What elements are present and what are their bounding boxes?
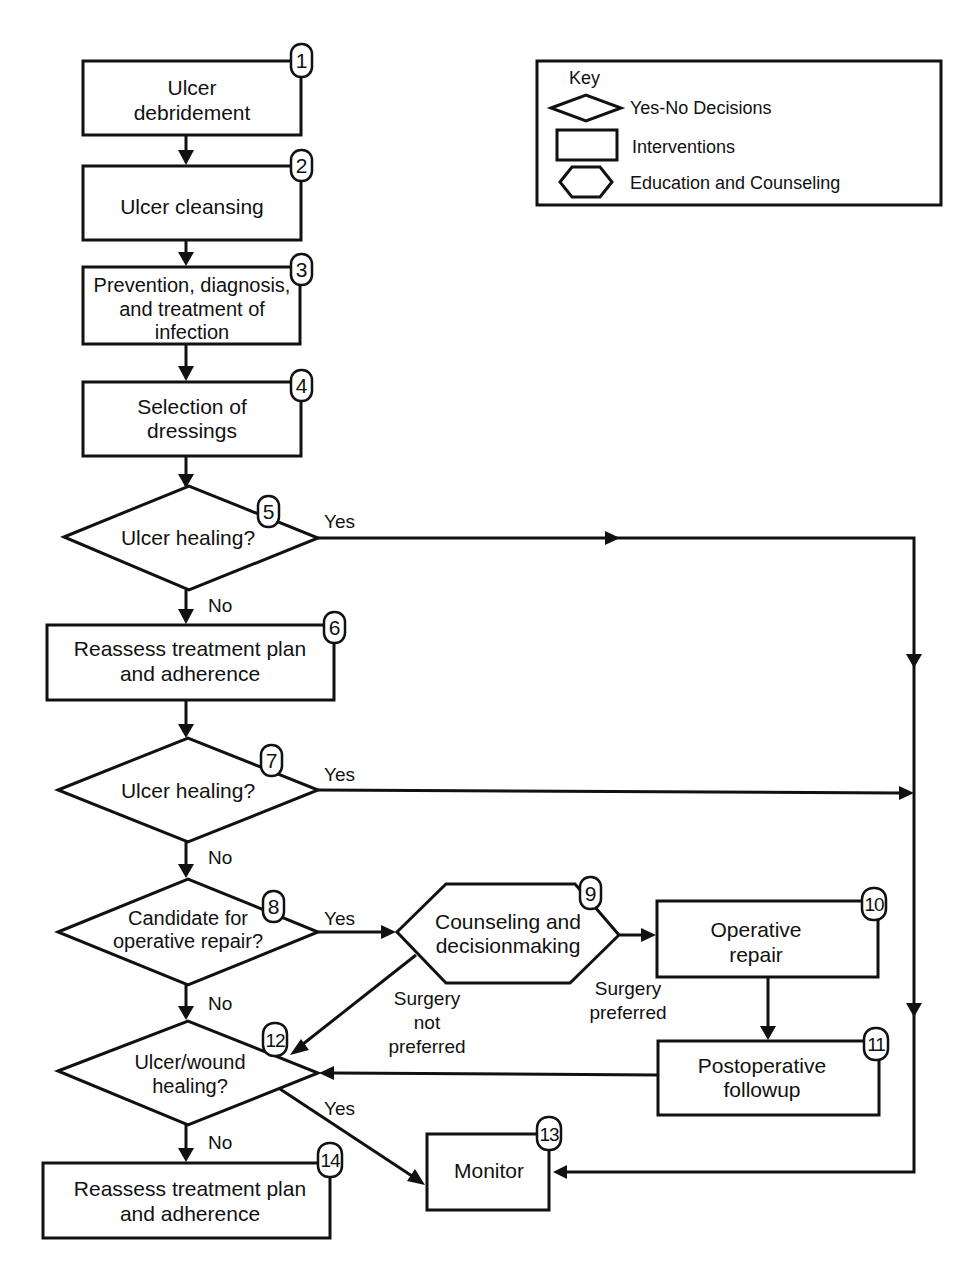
svg-text:1: 1	[296, 49, 308, 72]
decision-candidate-operative-repair: Candidate for operative repair? 8	[58, 879, 318, 985]
svg-text:Reassess treatment plan: Reassess treatment plan	[74, 1177, 306, 1200]
svg-text:Ulcer/wound: Ulcer/wound	[134, 1051, 245, 1073]
svg-text:Selection of: Selection of	[137, 395, 247, 418]
node-operative-repair: Operative repair 10	[657, 888, 886, 977]
node-ulcer-debridement: Ulcer debridement 1	[83, 44, 312, 135]
education-counseling-decisionmaking: Counseling and decisionmaking 9	[397, 877, 619, 983]
arrow-8-12-icon	[178, 1006, 194, 1020]
arrow-6-7-icon	[178, 724, 194, 738]
legend-title: Key	[569, 68, 600, 88]
node-monitor: Monitor 13	[427, 1117, 561, 1210]
svg-text:Ulcer: Ulcer	[167, 76, 216, 99]
node-reassess-6: Reassess treatment plan and adherence 6	[47, 612, 345, 700]
svg-text:9: 9	[585, 882, 597, 905]
svg-text:3: 3	[296, 258, 308, 281]
svg-text:operative repair?: operative repair?	[113, 930, 263, 952]
node-ulcer-cleansing: Ulcer cleansing 2	[83, 150, 312, 240]
svg-text:4: 4	[296, 374, 308, 397]
edge-label-8-no: No	[208, 993, 232, 1014]
svg-text:2: 2	[296, 154, 308, 177]
svg-text:debridement: debridement	[134, 101, 251, 124]
svg-text:Prevention, diagnosis,: Prevention, diagnosis,	[94, 274, 291, 296]
svg-text:6: 6	[329, 616, 341, 639]
svg-text:dressings: dressings	[147, 419, 237, 442]
legend-label-decisions: Yes-No Decisions	[630, 98, 771, 118]
edge-label-12-no: No	[208, 1132, 232, 1153]
svg-text:Candidate for: Candidate for	[128, 907, 248, 929]
arrow-8-9-icon	[381, 925, 396, 939]
edge-label-9-not-preferred-1: Surgery	[394, 988, 461, 1009]
svg-text:repair: repair	[729, 943, 783, 966]
node-selection-of-dressings: Selection of dressings 4	[83, 370, 312, 456]
node-reassess-14: Reassess treatment plan and adherence 14	[43, 1143, 342, 1238]
svg-text:and adherence: and adherence	[120, 662, 260, 685]
node-postoperative-followup: Postoperative followup 11	[658, 1028, 888, 1115]
arrow-12-13-icon	[407, 1169, 425, 1185]
legend-label-interventions: Interventions	[632, 137, 735, 157]
svg-text:14: 14	[320, 1150, 341, 1171]
decision-ulcer-wound-healing: Ulcer/wound healing? 12	[58, 1021, 318, 1125]
arrow-10-11-icon	[760, 1026, 776, 1040]
arrow-7-8-icon	[178, 864, 194, 878]
svg-text:13: 13	[539, 1124, 559, 1145]
svg-text:Postoperative: Postoperative	[698, 1054, 826, 1077]
edge-label-5-no: No	[208, 595, 232, 616]
edge-label-9-not-preferred-2: not	[414, 1012, 441, 1033]
edge-label-7-yes: Yes	[324, 764, 355, 785]
svg-text:Reassess treatment plan: Reassess treatment plan	[74, 637, 306, 660]
svg-text:8: 8	[268, 895, 280, 918]
edge-label-9-preferred-1: Surgery	[595, 978, 662, 999]
arrow-rail-down-1-icon	[906, 654, 922, 668]
edge-label-9-not-preferred-3: preferred	[388, 1036, 465, 1057]
legend-rectangle-icon	[557, 130, 617, 160]
arrow-to-monitor-icon	[553, 1165, 567, 1179]
arrow-3-4-icon	[178, 366, 194, 381]
svg-text:Ulcer healing?: Ulcer healing?	[121, 526, 255, 549]
svg-text:infection: infection	[155, 321, 230, 343]
svg-text:Counseling and: Counseling and	[435, 910, 581, 933]
svg-text:decisionmaking: decisionmaking	[436, 934, 581, 957]
arrow-5-yes-icon	[605, 531, 620, 545]
svg-text:Monitor: Monitor	[454, 1159, 524, 1182]
node-infection: Prevention, diagnosis, and treatment of …	[83, 254, 312, 344]
decision-ulcer-healing-5: Ulcer healing? 5	[64, 486, 318, 590]
svg-text:and treatment of: and treatment of	[119, 298, 265, 320]
svg-text:and adherence: and adherence	[120, 1202, 260, 1225]
svg-text:12: 12	[265, 1030, 285, 1051]
arrow-12-14-icon	[178, 1148, 194, 1162]
svg-text:Ulcer healing?: Ulcer healing?	[121, 779, 255, 802]
edge-label-9-preferred-2: preferred	[589, 1002, 666, 1023]
svg-text:healing?: healing?	[152, 1075, 228, 1097]
arrow-rail-down-2-icon	[906, 1003, 922, 1017]
svg-text:followup: followup	[723, 1078, 800, 1101]
edge-label-5-yes: Yes	[324, 511, 355, 532]
svg-text:5: 5	[263, 500, 275, 523]
svg-text:10: 10	[864, 894, 884, 915]
svg-text:Ulcer cleansing: Ulcer cleansing	[120, 195, 264, 218]
legend-label-education: Education and Counseling	[630, 173, 840, 193]
legend: Key Yes-No Decisions Interventions Educa…	[537, 61, 941, 205]
arrow-7-yes-icon	[899, 786, 914, 800]
edge-label-8-yes: Yes	[324, 908, 355, 929]
edge-label-12-yes: Yes	[324, 1098, 355, 1119]
svg-text:11: 11	[867, 1034, 885, 1055]
arrow-9-10-icon	[641, 928, 656, 942]
edge-label-7-no: No	[208, 847, 232, 868]
svg-text:7: 7	[266, 749, 278, 772]
flowchart: Key Yes-No Decisions Interventions Educa…	[0, 0, 963, 1274]
legend-hexagon-icon	[560, 167, 612, 197]
arrow-2-3-icon	[178, 252, 194, 266]
svg-text:Operative: Operative	[710, 918, 801, 941]
decision-ulcer-healing-7: Ulcer healing? 7	[58, 738, 318, 842]
arrow-1-2-icon	[178, 150, 194, 165]
arrow-5-6-icon	[178, 609, 194, 624]
